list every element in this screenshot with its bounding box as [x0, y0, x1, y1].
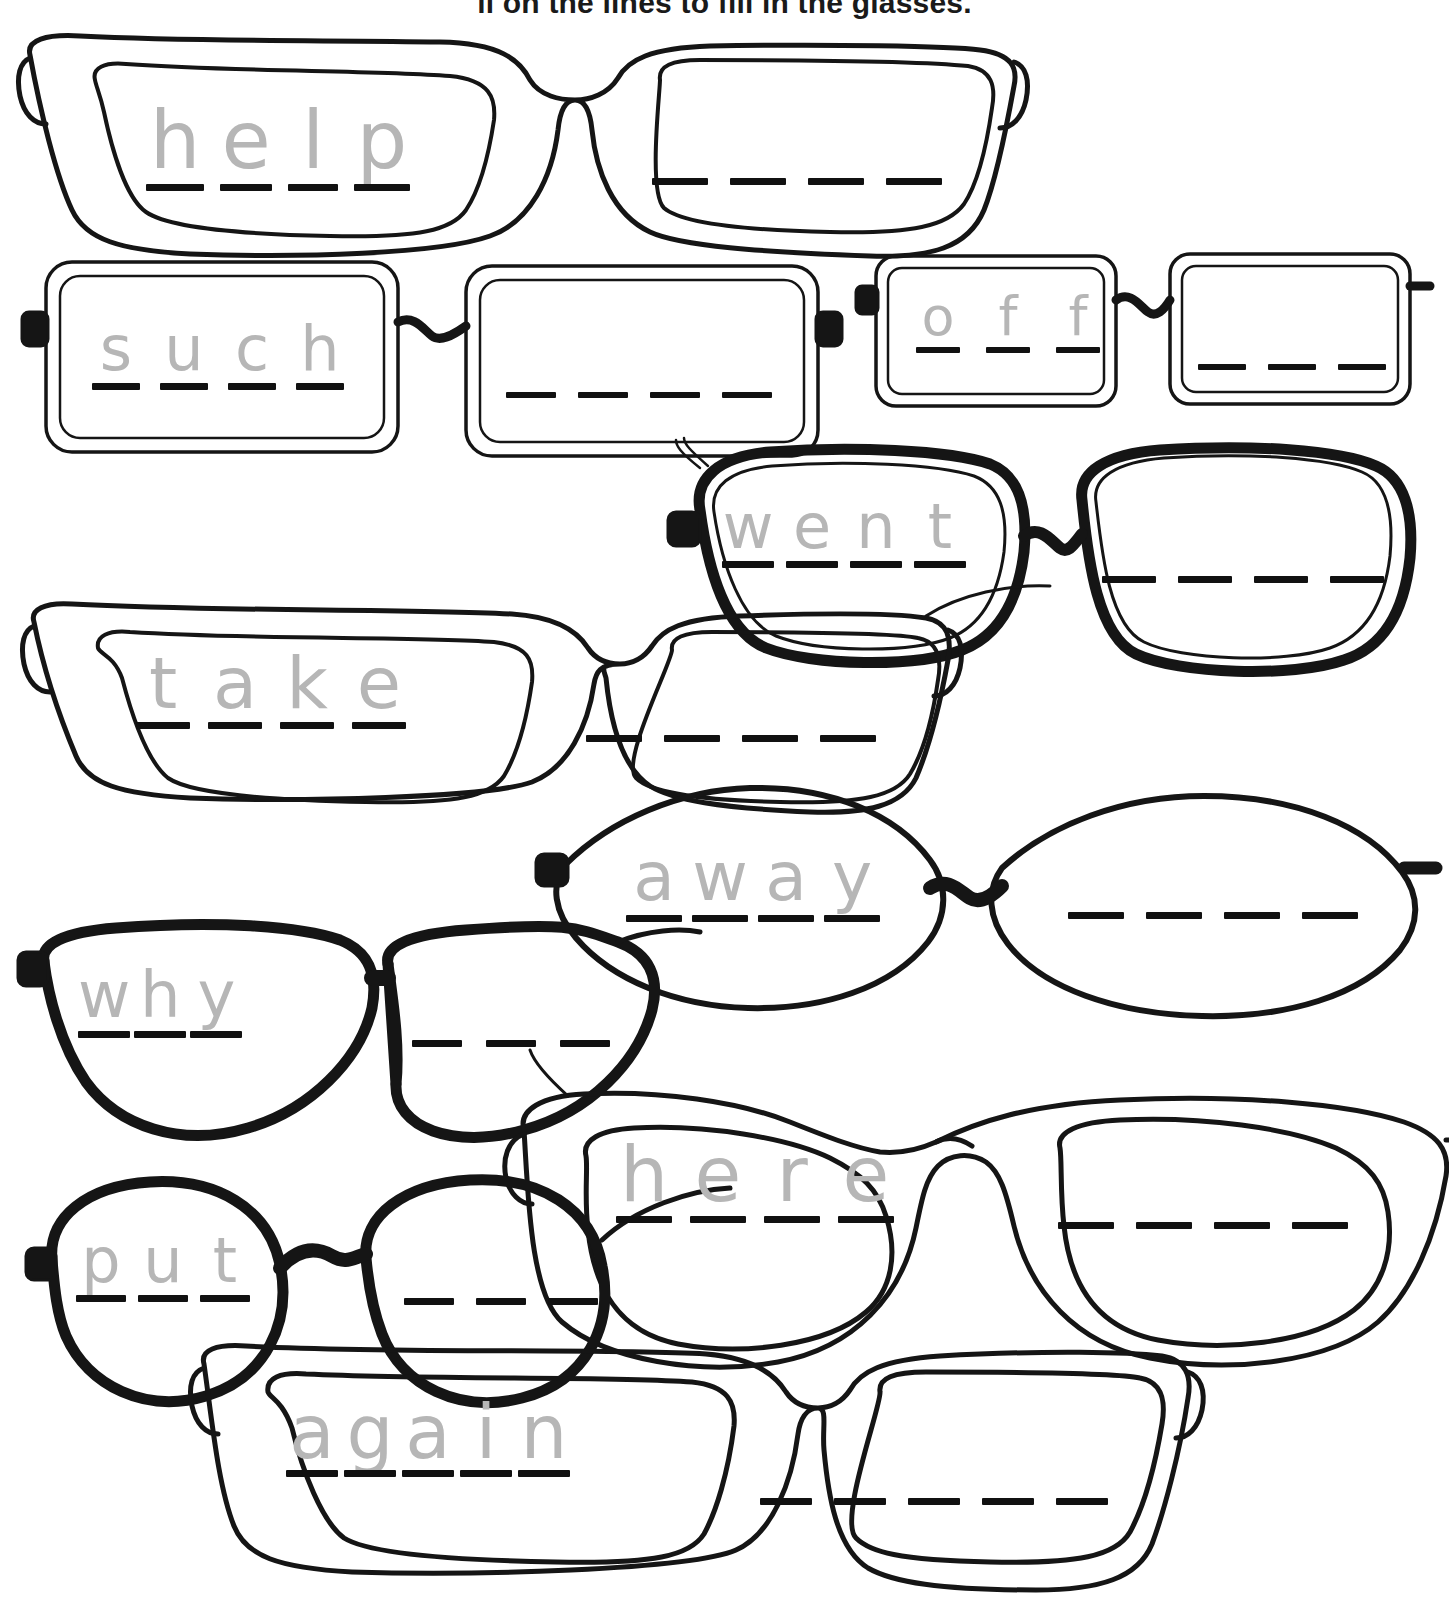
trace-glyph: r	[776, 1140, 807, 1210]
trace-word-take: t a k e	[136, 650, 406, 729]
trace-glyph: l	[302, 104, 324, 178]
blank-lines-here	[1058, 1222, 1348, 1229]
blank-dash	[1268, 364, 1316, 370]
trace-letter-cell: r	[764, 1140, 820, 1223]
trace-glyph: p	[357, 104, 408, 178]
trace-letter-cell: e	[220, 104, 272, 191]
blank-dash	[1058, 1222, 1114, 1229]
blank-dash	[1136, 1222, 1192, 1229]
trace-glyph: f	[1068, 292, 1087, 342]
trace-glyph: f	[998, 292, 1017, 342]
trace-glyph: s	[100, 320, 132, 377]
blank-dash	[820, 735, 876, 742]
trace-word-help: h e l p	[146, 104, 410, 191]
blank-lines-such	[506, 392, 772, 398]
blank-dash	[1214, 1222, 1270, 1229]
letter-dash	[626, 915, 682, 922]
letter-dash	[764, 1216, 820, 1223]
letter-dash	[758, 915, 814, 922]
trace-word-went: w e n t	[722, 498, 966, 568]
trace-letter-cell: p	[76, 1232, 126, 1302]
blank-dash	[486, 1040, 536, 1047]
letter-dash	[228, 383, 276, 390]
blank-dash	[1178, 576, 1232, 583]
trace-glyph: e	[221, 104, 270, 178]
trace-glyph: t	[149, 650, 177, 716]
blank-dash	[760, 1498, 812, 1505]
trace-letter-cell: a	[402, 1398, 454, 1477]
trace-letter-cell: p	[354, 104, 410, 191]
trace-letter-cell: c	[228, 320, 276, 390]
letter-dash	[288, 184, 338, 191]
trace-letter-cell: k	[280, 650, 334, 729]
blank-lines-again	[760, 1498, 1108, 1505]
letter-dash	[460, 1470, 512, 1477]
trace-letter-cell: t	[914, 498, 966, 568]
blank-dash	[808, 178, 864, 185]
trace-letter-cell: n	[850, 498, 902, 568]
letter-dash	[786, 561, 838, 568]
trace-glyph: y	[832, 846, 872, 909]
trace-letter-cell: a	[758, 846, 814, 922]
trace-glyph: a	[405, 1398, 450, 1466]
trace-letter-cell: h	[134, 966, 186, 1038]
letter-dash	[1056, 347, 1100, 353]
blank-dash	[1338, 364, 1386, 370]
blank-dash	[730, 178, 786, 185]
trace-letter-cell: u	[138, 1232, 188, 1302]
trace-letter-cell: e	[786, 498, 838, 568]
letter-dash	[208, 722, 262, 729]
trace-glyph: o	[921, 292, 954, 342]
letter-dash	[838, 1216, 894, 1223]
letter-dash	[402, 1470, 454, 1477]
blank-dash	[1224, 912, 1280, 919]
trace-letter-cell: n	[518, 1398, 570, 1477]
trace-glyph: w	[692, 846, 748, 909]
trace-glyph: w	[78, 966, 130, 1025]
trace-glyph: y	[197, 966, 235, 1025]
trace-letter-cell: t	[136, 650, 190, 729]
trace-letter-cell: o	[916, 292, 960, 353]
trace-glyph: a	[765, 846, 807, 909]
trace-glyph: e	[793, 498, 831, 555]
trace-word-here: h e r e	[616, 1140, 894, 1223]
blank-dash	[1146, 912, 1202, 919]
trace-glyph: a	[213, 650, 257, 716]
blank-dash	[404, 1298, 454, 1305]
blank-lines-put	[404, 1298, 598, 1305]
letter-dash	[616, 1216, 672, 1223]
blank-dash	[742, 735, 798, 742]
trace-letter-cell: a	[208, 650, 262, 729]
letter-dash	[850, 561, 902, 568]
trace-glyph: g	[347, 1398, 394, 1466]
letter-dash	[200, 1295, 250, 1302]
trace-glyph: e	[357, 650, 401, 716]
trace-letter-cell: f	[986, 292, 1030, 353]
letter-dash	[160, 383, 208, 390]
blank-dash	[412, 1040, 462, 1047]
blank-lines-help	[652, 178, 942, 185]
blank-dash	[476, 1298, 526, 1305]
trace-glyph: c	[235, 320, 269, 377]
blank-lines-away	[1068, 912, 1358, 919]
trace-letter-cell: w	[692, 846, 748, 922]
trace-letter-cell: y	[190, 966, 242, 1038]
trace-glyph: t	[928, 498, 952, 555]
trace-letter-cell: e	[352, 650, 406, 729]
trace-letter-cell: h	[146, 104, 204, 191]
trace-glyph: h	[140, 966, 181, 1025]
letter-dash	[220, 184, 272, 191]
trace-word-why: w h y	[78, 966, 242, 1038]
trace-letter-cell: h	[616, 1140, 672, 1223]
blank-dash	[908, 1498, 960, 1505]
trace-word-again: a g a i n	[286, 1398, 570, 1477]
trace-letter-cell: l	[288, 104, 338, 191]
blank-lines-went	[1102, 576, 1384, 583]
trace-glyph: u	[164, 320, 203, 377]
blank-dash	[886, 178, 942, 185]
trace-glyph: i	[476, 1398, 497, 1466]
blank-dash	[548, 1298, 598, 1305]
blank-dash	[1068, 912, 1124, 919]
letter-dash	[692, 915, 748, 922]
trace-letter-cell: e	[690, 1140, 746, 1223]
